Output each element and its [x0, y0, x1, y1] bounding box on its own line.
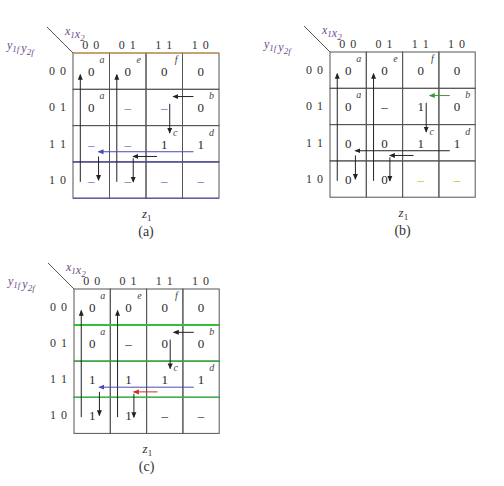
dont-care-cell-value: – [197, 173, 205, 188]
cell-value: 0 [198, 336, 205, 351]
column-header: 1 1 [156, 274, 174, 288]
cell-value: 1 [418, 136, 425, 151]
row-header: 0 0 [49, 64, 67, 78]
cell-value: 0 [125, 300, 132, 315]
cell-value: 1 [454, 136, 461, 151]
dont-care-cell-value: – [160, 173, 168, 188]
cell-value: 0 [161, 64, 168, 79]
cell-value: 0 [88, 64, 95, 79]
state-label: b [465, 89, 470, 100]
row-header: 1 0 [306, 172, 324, 186]
column-header: 1 0 [192, 38, 210, 52]
karnaugh-map-a: x1x2y1fy2f0 00 11 11 00 00 11 11 000000–… [6, 24, 219, 240]
row-header: 1 0 [50, 408, 68, 422]
karnaugh-map-figure: x1x2y1fy2f0 00 11 11 00 00 11 11 000000–… [0, 0, 504, 486]
row-header: 0 1 [50, 336, 68, 350]
state-label: e [393, 53, 398, 64]
dont-care-cell-value: – [160, 100, 168, 115]
dont-care-cell-value: – [124, 100, 132, 115]
dont-care-cell-value: – [197, 408, 205, 423]
row-variables-label: y1fy2f [263, 37, 292, 56]
cell-value: 0 [162, 336, 169, 351]
state-label: b [209, 90, 214, 101]
state-label: f [175, 54, 179, 65]
column-header: 1 0 [448, 37, 466, 51]
cell-value: 0 [198, 100, 205, 115]
cell-value: 1 [161, 137, 168, 152]
cell-value: 1 [418, 99, 425, 114]
cell-value: 0 [381, 136, 388, 151]
cell-value: 0 [88, 100, 95, 115]
column-header: 0 0 [339, 37, 357, 51]
dont-care-cell-value: – [124, 137, 132, 152]
dont-care-cell-value: – [380, 99, 388, 114]
row-header: 1 0 [49, 173, 67, 187]
figure-caption: (b) [394, 223, 411, 239]
cell-value: 0 [418, 63, 425, 78]
output-label: z1 [398, 205, 409, 222]
state-label: f [431, 53, 435, 64]
row-header: 0 0 [50, 300, 68, 314]
state-label: a [356, 53, 361, 64]
column-header: 1 0 [192, 274, 210, 288]
state-label: f [175, 290, 179, 301]
state-label: a [100, 290, 105, 301]
dont-care-cell-value: – [417, 172, 425, 187]
state-label: e [137, 290, 142, 301]
cell-value: 1 [89, 408, 96, 423]
state-label: c [429, 126, 434, 137]
output-label: z1 [142, 441, 153, 458]
row-header: 0 1 [306, 99, 324, 113]
cell-value: 0 [89, 336, 96, 351]
row-header: 1 1 [50, 372, 68, 386]
karnaugh-map-b: x1x2y1fy2f0 00 11 11 00 00 11 11 000000–… [263, 23, 475, 239]
cell-value: 0 [381, 172, 388, 187]
column-header: 0 1 [119, 38, 137, 52]
cell-value: 0 [198, 300, 205, 315]
cell-value: 0 [345, 172, 352, 187]
dont-care-cell-value: – [87, 137, 95, 152]
state-label: d [465, 126, 471, 137]
row-header: 0 0 [306, 63, 324, 77]
dont-care-cell-value: – [87, 173, 95, 188]
figure-caption: (a) [138, 224, 154, 240]
dont-care-cell-value: – [161, 408, 169, 423]
cell-value: 0 [345, 136, 352, 151]
cell-value: 0 [381, 63, 388, 78]
cell-value: 1 [162, 372, 169, 387]
column-header: 0 1 [119, 274, 137, 288]
cell-value: 0 [162, 300, 169, 315]
row-header: 0 1 [49, 100, 67, 114]
state-label: a [100, 326, 105, 337]
cell-value: 0 [454, 63, 461, 78]
state-label: d [209, 127, 215, 138]
karnaugh-map-c: x1x2y1fy2f0 00 11 11 00 00 11 11 000000–… [7, 260, 219, 475]
row-header: 1 1 [306, 136, 324, 150]
cell-value: 0 [89, 300, 96, 315]
state-label: b [209, 326, 214, 337]
state-label: e [137, 54, 142, 65]
state-label: c [173, 362, 178, 373]
figure-caption: (c) [139, 459, 155, 475]
dont-care-cell-value: – [124, 336, 132, 351]
cell-value: 1 [89, 372, 96, 387]
state-label: d [209, 362, 215, 373]
output-label: z1 [141, 206, 152, 223]
state-label: a [100, 90, 105, 101]
column-header: 0 0 [82, 38, 100, 52]
row-variables-label: y1fy2f [7, 274, 36, 293]
column-header: 1 1 [155, 38, 173, 52]
cell-value: 0 [198, 64, 205, 79]
row-header: 1 1 [49, 137, 67, 151]
cell-value: 0 [454, 99, 461, 114]
column-header: 1 1 [412, 37, 430, 51]
state-label: a [100, 54, 105, 65]
cell-value: 0 [345, 99, 352, 114]
state-label: c [173, 127, 178, 138]
cell-value: 0 [125, 64, 132, 79]
cell-value: 1 [125, 372, 132, 387]
dont-care-cell-value: – [124, 173, 132, 188]
cell-value: 1 [198, 372, 205, 387]
cell-value: 1 [125, 408, 132, 423]
state-label: a [356, 89, 361, 100]
